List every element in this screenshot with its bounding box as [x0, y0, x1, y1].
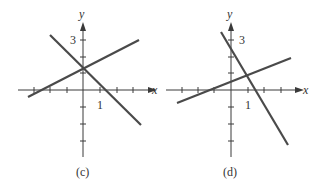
panel-c-caption: (c)	[76, 166, 89, 178]
panel-c-x-axis-label: x	[152, 84, 157, 96]
panel-c-y-tick-label: 3	[70, 34, 76, 46]
panel-d-x-axis-label: x	[303, 84, 308, 96]
panel-d-y-tick-label: 3	[239, 34, 245, 46]
panel-d-y-axis-label: y	[227, 8, 232, 20]
panel-d-caption: (d)	[223, 166, 237, 178]
panel-c-line-negative	[50, 35, 141, 125]
panel-d-x-tick-label: 1	[245, 99, 251, 111]
panel-c-x-tick-label: 1	[97, 99, 103, 111]
graphs-canvas	[0, 0, 322, 189]
panel-d-line-positive	[177, 58, 291, 103]
panel-c-y-axis-label: y	[79, 8, 84, 20]
